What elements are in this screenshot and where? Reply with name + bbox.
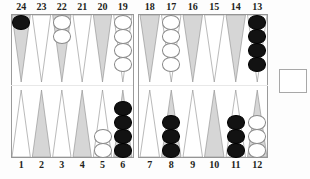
checker-black-point-11[interactable]	[227, 129, 245, 144]
checker-black-point-13[interactable]	[248, 15, 266, 30]
point-label-top-14: 14	[225, 0, 247, 14]
checker-white-point-22[interactable]	[53, 15, 71, 30]
point-label-top-22: 22	[51, 0, 73, 14]
checker-white-point-19[interactable]	[114, 43, 132, 58]
point-label-bottom-12: 12	[246, 158, 268, 172]
checker-black-point-6[interactable]	[114, 101, 132, 116]
point-label-bottom-3: 3	[51, 158, 73, 172]
point-label-bottom-9: 9	[182, 158, 204, 172]
point-label-bottom-7: 7	[139, 158, 161, 172]
point-label-top-21: 21	[71, 0, 93, 14]
checker-white-point-19[interactable]	[114, 29, 132, 44]
checker-black-point-6[interactable]	[114, 143, 132, 158]
checker-black-point-6[interactable]	[114, 115, 132, 130]
point-label-top-18: 18	[139, 0, 161, 14]
checker-white-point-5[interactable]	[94, 143, 112, 158]
checker-black-point-13[interactable]	[248, 29, 266, 44]
checker-white-point-22[interactable]	[53, 29, 71, 44]
checker-white-point-5[interactable]	[94, 129, 112, 144]
checker-black-point-13[interactable]	[248, 57, 266, 72]
top-point-number-row: 242322212019181716151413	[0, 0, 310, 14]
checker-black-point-8[interactable]	[162, 129, 180, 144]
checker-white-point-19[interactable]	[114, 57, 132, 72]
checker-white-point-12[interactable]	[248, 129, 266, 144]
point-label-top-16: 16	[182, 0, 204, 14]
checker-white-point-12[interactable]	[248, 115, 266, 130]
checker-black-point-11[interactable]	[227, 115, 245, 130]
checker-black-point-13[interactable]	[248, 43, 266, 58]
point-label-bottom-1: 1	[10, 158, 32, 172]
board-bar[interactable]	[133, 14, 139, 158]
checker-white-point-17[interactable]	[162, 43, 180, 58]
checker-white-point-12[interactable]	[248, 143, 266, 158]
point-label-bottom-4: 4	[71, 158, 93, 172]
point-label-top-19: 19	[112, 0, 134, 14]
point-label-bottom-5: 5	[92, 158, 114, 172]
point-label-top-17: 17	[160, 0, 182, 14]
point-label-top-23: 23	[31, 0, 53, 14]
point-label-bottom-6: 6	[112, 158, 134, 172]
point-label-bottom-8: 8	[160, 158, 182, 172]
checker-black-point-8[interactable]	[162, 115, 180, 130]
checker-black-point-6[interactable]	[114, 129, 132, 144]
checker-black-point-8[interactable]	[162, 143, 180, 158]
checker-white-point-17[interactable]	[162, 15, 180, 30]
point-label-top-15: 15	[203, 0, 225, 14]
board-midline-divider	[11, 85, 268, 86]
checker-black-point-24[interactable]	[12, 15, 30, 30]
doubling-cube-tray[interactable]	[279, 69, 307, 93]
point-label-top-24: 24	[10, 0, 32, 14]
checker-white-point-19[interactable]	[114, 15, 132, 30]
point-label-bottom-11: 11	[225, 158, 247, 172]
point-label-bottom-10: 10	[203, 158, 225, 172]
bottom-point-number-row: 123456789101112	[0, 158, 310, 172]
checker-white-point-17[interactable]	[162, 29, 180, 44]
point-label-top-13: 13	[246, 0, 268, 14]
point-label-bottom-2: 2	[31, 158, 53, 172]
backgammon-diagram: 242322212019181716151413 123456789101112	[0, 0, 310, 179]
checker-black-point-11[interactable]	[227, 143, 245, 158]
point-label-top-20: 20	[92, 0, 114, 14]
checker-white-point-17[interactable]	[162, 57, 180, 72]
